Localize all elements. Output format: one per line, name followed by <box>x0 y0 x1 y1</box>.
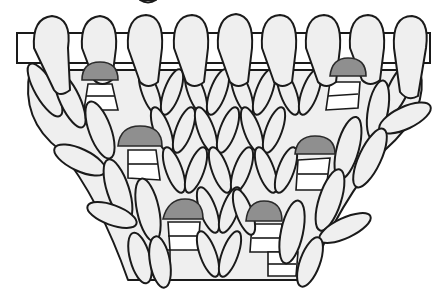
knitting-diagram <box>0 0 441 299</box>
top-partial-shape <box>140 0 156 3</box>
marker-1 <box>82 62 118 80</box>
knitting-illustration <box>0 0 441 299</box>
